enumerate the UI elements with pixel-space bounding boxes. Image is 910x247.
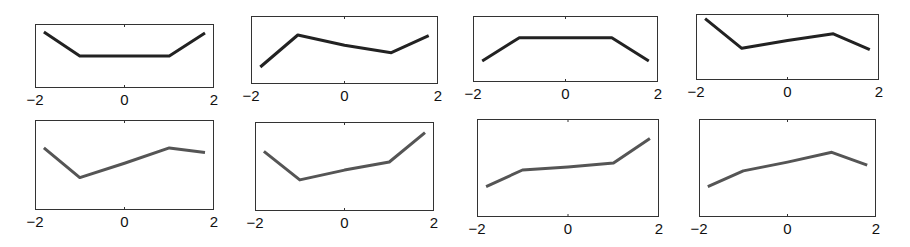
data-line	[486, 139, 650, 187]
x-tick-label: −2	[242, 88, 259, 103]
x-tick-label: 2	[430, 215, 438, 230]
line-plot-7: −202	[477, 119, 659, 217]
data-line	[260, 35, 428, 67]
axes-box	[36, 121, 214, 210]
x-tick-label: −2	[246, 215, 263, 230]
data-line	[705, 19, 870, 50]
x-tick-label: 0	[561, 86, 569, 101]
data-line	[44, 32, 205, 56]
x-tick-label: −2	[690, 221, 707, 236]
x-tick-label: 0	[120, 214, 128, 229]
data-line	[708, 152, 867, 186]
line-plot-6: −202	[255, 122, 434, 211]
x-tick-label: −2	[26, 214, 43, 229]
x-tick-label: 0	[783, 221, 791, 236]
line-plot-1: −202	[35, 24, 214, 88]
plot-canvas	[251, 16, 438, 84]
x-tick-label: 0	[120, 92, 128, 107]
x-tick-label: 0	[564, 221, 572, 236]
x-tick-label: 2	[434, 88, 442, 103]
plot-canvas	[699, 119, 876, 217]
line-plot-8: −202	[699, 119, 876, 217]
x-tick-label: −2	[468, 221, 485, 236]
plot-canvas	[35, 120, 214, 210]
plot-canvas	[35, 24, 214, 88]
line-plot-5: −202	[35, 120, 214, 210]
plot-canvas	[696, 14, 879, 80]
x-tick-label: 2	[210, 214, 218, 229]
line-plot-4: −202	[696, 14, 879, 80]
x-tick-label: 2	[872, 221, 880, 236]
x-tick-label: 0	[340, 88, 348, 103]
plot-canvas	[255, 122, 434, 211]
x-tick-label: 2	[875, 84, 883, 99]
data-line	[44, 148, 205, 178]
plot-canvas	[477, 119, 659, 217]
plot-canvas	[473, 16, 658, 82]
x-tick-label: −2	[687, 84, 704, 99]
line-plot-2: −202	[251, 16, 438, 84]
x-tick-label: 0	[340, 215, 348, 230]
data-line	[482, 38, 649, 61]
axes-box	[697, 15, 879, 80]
line-plot-3: −202	[473, 16, 658, 82]
axes-box	[700, 120, 876, 217]
x-tick-label: 2	[210, 92, 218, 107]
x-tick-label: 0	[783, 84, 791, 99]
x-tick-label: 2	[655, 221, 663, 236]
x-tick-label: −2	[464, 86, 481, 101]
data-line	[264, 133, 425, 180]
x-tick-label: 2	[654, 86, 662, 101]
x-tick-label: −2	[26, 92, 43, 107]
